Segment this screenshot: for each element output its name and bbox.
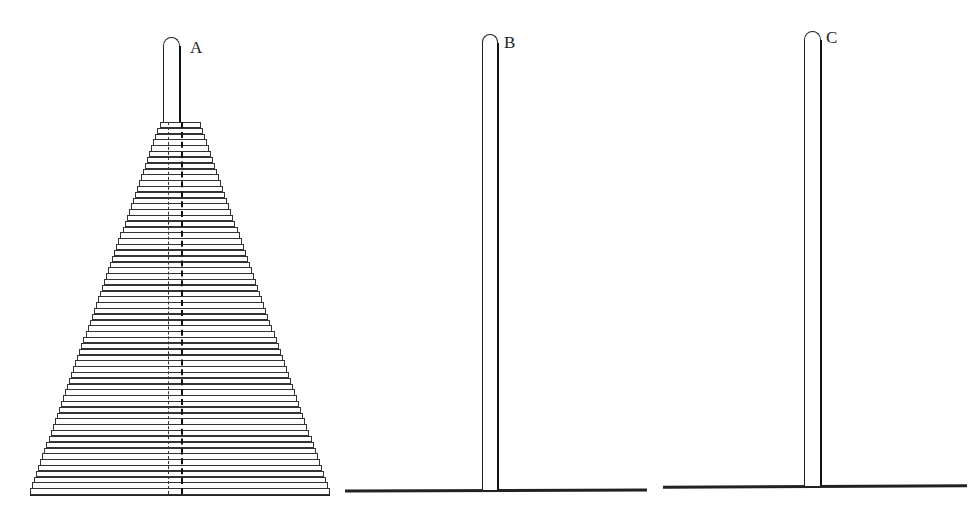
peg-a-hidden-left-edge	[168, 122, 169, 494]
tower-of-hanoi-diagram: A B C	[0, 0, 969, 519]
peg-label-b: B	[504, 33, 515, 53]
peg-label-c: C	[826, 28, 837, 48]
peg-label-a: A	[190, 38, 202, 58]
peg-c	[804, 31, 821, 486]
disk	[30, 488, 330, 494]
peg-b	[482, 34, 498, 490]
peg-a-hidden-right-edge	[181, 122, 183, 494]
